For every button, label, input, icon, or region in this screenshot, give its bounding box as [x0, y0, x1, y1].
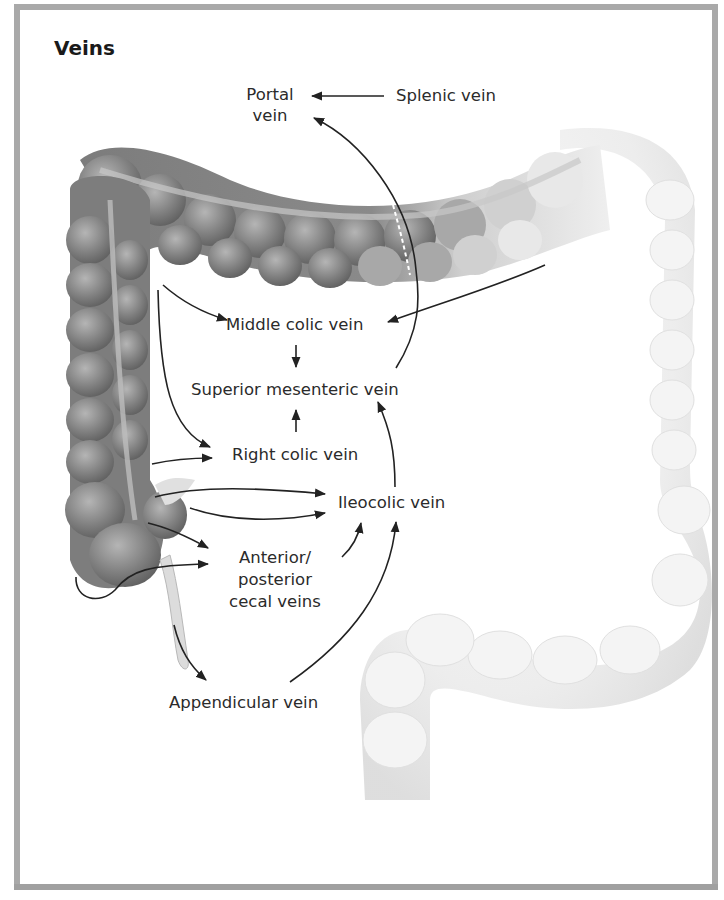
- label-cecal-line1: Anterior/: [220, 547, 330, 569]
- label-portal-line2: vein: [240, 105, 300, 126]
- transverse-colon: [78, 145, 610, 288]
- label-right-colic-vein: Right colic vein: [232, 444, 358, 465]
- label-cecal-line3: cecal veins: [220, 591, 330, 613]
- label-portal-vein: Portal vein: [240, 84, 300, 126]
- label-portal-line1: Portal: [240, 84, 300, 105]
- label-ileocolic-vein: Ileocolic vein: [338, 492, 445, 513]
- label-superior-mesenteric-vein: Superior mesenteric vein: [191, 379, 399, 400]
- label-splenic-vein: Splenic vein: [396, 85, 496, 106]
- label-middle-colic-vein: Middle colic vein: [226, 314, 363, 335]
- label-cecal-line2: posterior: [220, 569, 330, 591]
- label-cecal-veins: Anterior/ posterior cecal veins: [220, 547, 330, 613]
- colon-illustration: [0, 0, 724, 900]
- label-appendicular-vein: Appendicular vein: [169, 692, 318, 713]
- figure-title: Veins: [54, 36, 115, 60]
